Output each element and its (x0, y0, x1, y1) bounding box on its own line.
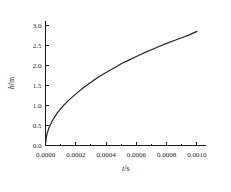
y-tick-label: 2.0 (33, 62, 42, 70)
x-tick-label: 0.0000 (36, 151, 56, 159)
y-axis-tick-labels: 0.00.51.01.52.02.53.0 (33, 22, 42, 150)
x-tick-label: 0.0010 (187, 151, 207, 159)
y-tick-label: 3.0 (33, 22, 42, 30)
x-tick-label: 0.0008 (157, 151, 177, 159)
y-tick-label: 2.5 (33, 42, 42, 50)
x-tick-label: 0.0004 (96, 151, 116, 159)
x-tick-label: 0.0002 (66, 151, 86, 159)
y-axis-title: h/m (7, 76, 16, 89)
x-axis-tick-labels: 0.00000.00020.00040.00060.00080.0010 (36, 151, 207, 159)
x-axis-title: t/s (122, 164, 130, 173)
y-tick-label: 0.5 (33, 122, 42, 130)
y-tick-label: 0.0 (33, 142, 42, 150)
y-tick-label: 1.5 (33, 82, 42, 90)
data-series-line (46, 31, 197, 142)
x-tick-label: 0.0006 (127, 151, 147, 159)
chart-figure: 0.00.51.01.52.02.53.0 0.00000.00020.0004… (0, 0, 231, 192)
chart-plot-area: 0.00.51.01.52.02.53.0 0.00000.00020.0004… (0, 0, 231, 192)
y-tick-label: 1.0 (33, 102, 42, 110)
